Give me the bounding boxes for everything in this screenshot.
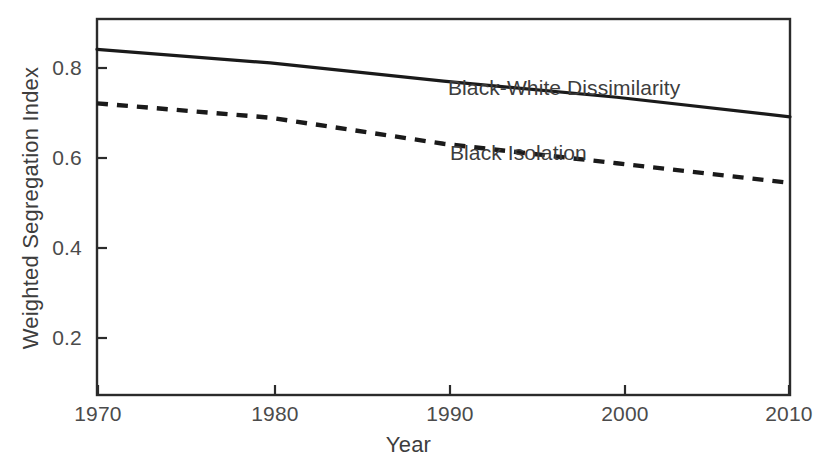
series-annotation-isolation: Black Isolation <box>450 141 587 165</box>
x-tick-label-2000: 2000 <box>601 402 649 426</box>
x-tick-label-1970: 1970 <box>74 402 122 426</box>
x-tick-label-1980: 1980 <box>251 402 299 426</box>
y-axis-title: Weighted Segregation Index <box>14 18 48 398</box>
x-tick-label-2010: 2010 <box>765 402 813 426</box>
chart-background <box>0 0 817 469</box>
x-tick-label-1990: 1990 <box>426 402 474 426</box>
x-axis-title: Year <box>0 432 817 458</box>
series-annotation-dissimilarity: Black-White Dissimilarity <box>448 76 680 100</box>
plot-area <box>0 0 817 469</box>
segregation-index-chart: 0.8 0.6 0.4 0.2 1970 1980 1990 2000 2010… <box>0 0 817 469</box>
